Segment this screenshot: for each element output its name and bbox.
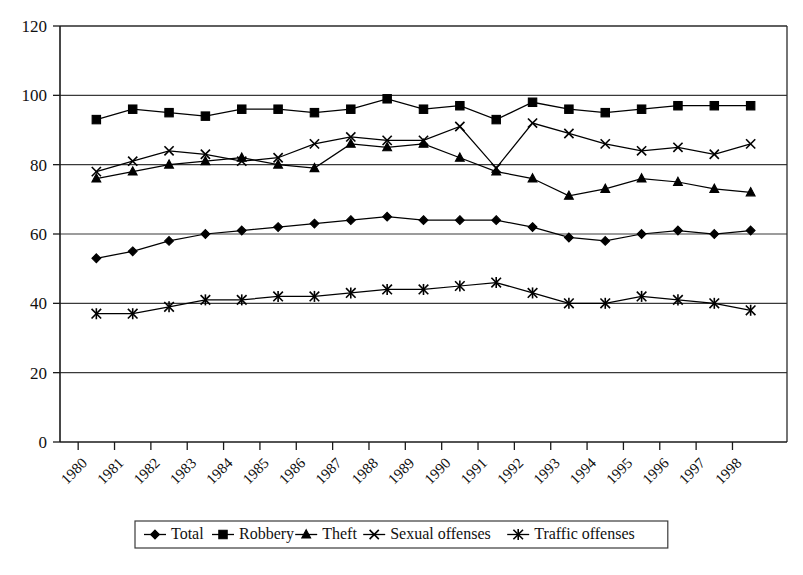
data-point-1992 [528, 287, 538, 298]
legend-label: Traffic offenses [534, 525, 635, 542]
data-point-1997 [710, 230, 719, 239]
data-point-1994 [601, 237, 610, 246]
x-axis-ticks: 1980198119821983198419851986198719881989… [58, 442, 745, 487]
data-point-1983 [201, 112, 209, 120]
data-point-1984 [238, 105, 246, 113]
x-tick-label-1996: 1996 [639, 454, 672, 487]
x-tick-label-1988: 1988 [349, 455, 382, 488]
series-traffic-offenses [92, 277, 756, 319]
data-series [92, 95, 756, 320]
series-total [92, 212, 755, 262]
data-point-1982 [165, 108, 173, 116]
data-point-1983 [201, 230, 210, 239]
data-point-1990 [455, 216, 464, 225]
data-point-1982 [164, 301, 174, 312]
data-point-1990 [455, 122, 464, 131]
x-tick-label-1997: 1997 [676, 454, 709, 487]
data-point-1993 [564, 129, 573, 138]
series-theft [92, 139, 755, 199]
line-chart: 020406080100120 198019811982198319841985… [0, 0, 803, 575]
x-tick-label-1995: 1995 [603, 455, 636, 488]
data-point-1981 [129, 105, 137, 113]
x-tick-label-1986: 1986 [276, 454, 309, 487]
data-point-1987 [346, 216, 355, 225]
y-tick-label-120: 120 [22, 17, 48, 36]
x-tick-label-1980: 1980 [58, 455, 91, 488]
legend-label: Theft [322, 525, 357, 542]
data-point-1991 [492, 115, 500, 123]
chart-container: 020406080100120 198019811982198319841985… [0, 0, 803, 575]
data-point-1986 [310, 219, 319, 228]
y-tick-label-0: 0 [39, 433, 48, 452]
data-point-1986 [310, 108, 318, 116]
data-point-1998 [746, 305, 756, 316]
data-point-1988 [383, 212, 392, 221]
data-point-1998 [746, 102, 754, 110]
x-tick-label-1990: 1990 [421, 455, 454, 488]
y-tick-label-80: 80 [30, 156, 47, 175]
data-point-1980 [92, 115, 100, 123]
data-point-1992 [528, 98, 536, 106]
x-tick-label-1985: 1985 [240, 455, 273, 488]
y-axis-ticks: 020406080100120 [22, 17, 61, 452]
data-point-1996 [674, 102, 682, 110]
data-point-1994 [601, 108, 609, 116]
data-point-1995 [637, 105, 645, 113]
data-point-1980 [92, 254, 101, 263]
data-point-1988 [383, 95, 391, 103]
data-point-1997 [710, 102, 718, 110]
data-point-1993 [565, 105, 573, 113]
data-point-1995 [637, 174, 646, 182]
x-tick-label-1993: 1993 [530, 455, 563, 488]
legend-label: Total [171, 525, 204, 542]
data-point-1990 [456, 102, 464, 110]
x-tick-label-1981: 1981 [94, 455, 127, 488]
data-point-1989 [419, 216, 428, 225]
x-tick-label-1984: 1984 [203, 454, 236, 487]
x-tick-label-1987: 1987 [312, 454, 345, 487]
x-tick-label-1989: 1989 [385, 455, 418, 488]
x-tick-label-1998: 1998 [712, 455, 745, 488]
y-tick-label-40: 40 [30, 294, 47, 313]
data-point-legend-1 [219, 530, 227, 538]
x-tick-label-1982: 1982 [130, 455, 163, 488]
data-point-1991 [492, 216, 501, 225]
data-point-1995 [637, 230, 646, 239]
series-line [96, 144, 750, 196]
legend-label: Robbery [239, 525, 294, 543]
y-tick-label-60: 60 [30, 225, 47, 244]
data-point-1992 [528, 223, 537, 232]
data-point-1998 [746, 139, 755, 148]
legend-label: Sexual offenses [390, 525, 491, 542]
data-point-1985 [274, 105, 282, 113]
x-tick-label-1983: 1983 [167, 455, 200, 488]
data-point-1987 [347, 105, 355, 113]
y-tick-label-20: 20 [30, 364, 47, 383]
data-point-1985 [274, 223, 283, 232]
chart-legend: TotalRobberyTheftSexual offensesTraffic … [135, 521, 668, 548]
data-point-1982 [165, 237, 174, 246]
data-point-1989 [419, 105, 427, 113]
series-robbery [92, 95, 755, 124]
y-tick-label-100: 100 [22, 86, 48, 105]
x-tick-label-1991: 1991 [458, 455, 491, 488]
data-point-1992 [528, 118, 537, 127]
x-tick-label-1994: 1994 [567, 454, 600, 487]
data-point-1981 [128, 247, 137, 256]
x-tick-label-1992: 1992 [494, 455, 527, 488]
